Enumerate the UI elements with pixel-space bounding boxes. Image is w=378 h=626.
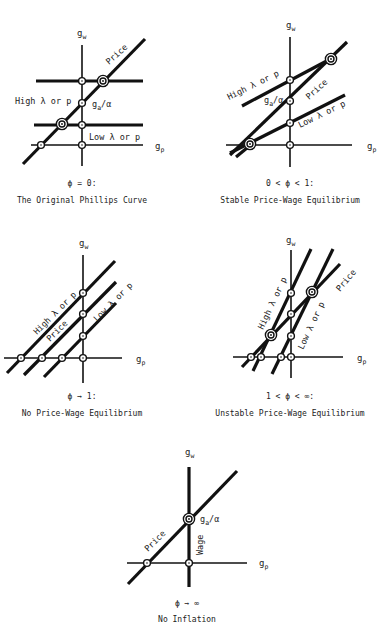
panel-title: Unstable Price-Wage Equilibrium — [215, 409, 364, 418]
panel-title: No Price-Wage Equilibrium — [22, 409, 143, 418]
y-axis-label: gw — [77, 28, 86, 41]
panel-no-equilibrium: gw gp High λ or p Price Low λ or p ϕ → 1… — [4, 238, 145, 418]
y-axis-label: gw — [286, 235, 295, 248]
panel-no-inflation: gw gp ga/α Wage Price ϕ → ∞ No Inflation — [127, 447, 268, 624]
panel-condition: ϕ → ∞ — [175, 599, 199, 608]
y-axis-label: gw — [286, 20, 295, 33]
ga-alpha-label: ga/α — [200, 514, 219, 527]
high-line-label: High λ or p — [15, 96, 71, 106]
ga-alpha-label: ga/α — [92, 99, 111, 112]
panel-stable-equilibrium: gw gp High λ or p Low λ or p ga/α Price … — [220, 20, 376, 205]
wage-line-label: Wage — [195, 535, 205, 555]
panel-title: No Inflation — [158, 615, 216, 624]
panel-title: The Original Phillips Curve — [17, 196, 147, 205]
y-axis-label: gw — [79, 238, 88, 251]
y-axis-label: gw — [185, 447, 194, 460]
panel-original-phillips: gw gp High λ or p Low λ or p ga/α Price … — [15, 28, 164, 205]
panel-condition: 1 < ϕ < ∞: — [266, 392, 314, 401]
panel-condition: ϕ → 1: — [68, 392, 97, 401]
x-axis-label: gp — [155, 141, 164, 154]
x-axis-label: gp — [136, 354, 145, 367]
panel-title: Stable Price-Wage Equilibrium — [220, 196, 360, 205]
panel-unstable-equilibrium: gw gp High λ or p Low λ or p Price 1 < ϕ… — [215, 235, 366, 418]
phillips-curve-diagrams: gw gp High λ or p Low λ or p ga/α Price … — [0, 0, 378, 626]
price-line-label: Price — [104, 42, 130, 67]
panel-condition: ϕ = 0: — [68, 179, 97, 188]
x-axis-label: gp — [367, 141, 376, 154]
price-line — [128, 471, 237, 584]
panel-condition: 0 < ϕ < 1: — [266, 179, 314, 188]
price-line-label: Price — [142, 528, 167, 553]
low-line-label: Low λ or p — [89, 132, 140, 142]
x-axis-label: gp — [357, 353, 366, 366]
price-line-label: Price — [334, 267, 358, 293]
x-axis-label: gp — [259, 558, 268, 571]
